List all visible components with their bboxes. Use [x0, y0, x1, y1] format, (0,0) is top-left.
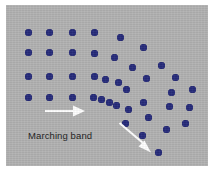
direction-arrow-straight-icon	[44, 103, 88, 119]
band-member-dot	[158, 62, 165, 69]
band-member-dot	[25, 73, 32, 80]
band-member-dot	[102, 76, 109, 83]
band-member-dot	[46, 49, 53, 56]
band-member-dot	[140, 99, 147, 106]
band-member-dot	[46, 94, 53, 101]
band-member-dot	[166, 103, 173, 110]
band-member-dot	[69, 94, 76, 101]
band-member-dot	[189, 86, 196, 93]
band-member-dot	[46, 29, 53, 36]
band-member-dot	[113, 102, 120, 109]
band-member-dot	[140, 44, 147, 51]
band-member-dot	[25, 29, 32, 36]
band-member-dot	[129, 64, 136, 71]
band-member-dot	[69, 73, 76, 80]
band-member-dot	[106, 99, 113, 106]
band-member-dot	[46, 73, 53, 80]
band-member-dot	[125, 106, 132, 113]
band-member-dot	[123, 86, 130, 93]
band-member-dot	[117, 34, 124, 41]
band-member-dot	[115, 79, 122, 86]
band-member-dot	[91, 29, 98, 36]
marching-band-label: Marching band	[28, 131, 92, 141]
band-member-dot	[91, 73, 98, 80]
marching-band-figure: Marching band	[0, 0, 216, 172]
band-member-dot	[145, 114, 152, 121]
marching-field: Marching band	[6, 5, 208, 166]
band-member-dot	[69, 29, 76, 36]
band-member-dot	[111, 54, 118, 61]
band-member-dot	[98, 96, 105, 103]
direction-arrow-deflected-icon	[118, 121, 158, 155]
band-member-dot	[90, 94, 97, 101]
band-member-dot	[143, 75, 150, 82]
band-member-dot	[25, 94, 32, 101]
band-member-dot	[186, 104, 193, 111]
band-member-dot	[182, 120, 189, 127]
band-member-dot	[168, 89, 175, 96]
band-member-dot	[91, 50, 98, 57]
band-member-dot	[25, 49, 32, 56]
band-member-dot	[69, 49, 76, 56]
band-member-dot	[172, 74, 179, 81]
band-member-dot	[163, 126, 170, 133]
